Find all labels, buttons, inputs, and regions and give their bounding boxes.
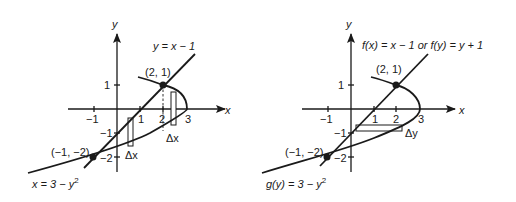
- y-tick-label: −2: [334, 152, 347, 164]
- right-figure: x y −1 1 2 3 1 −1 −2 (2, 1) (−1, −2) Δy …: [262, 18, 483, 190]
- line-equation-label: f(x) = x − 1 or f(y) = y + 1: [362, 39, 483, 51]
- x-axis-label: x: [224, 104, 231, 116]
- region-area-diagrams: x y −1 1 2 3 1 −1 −2 (2, 1) (−1, −2) Δ: [0, 0, 516, 202]
- y-tick-label: −2: [100, 152, 113, 164]
- x-tick-label: 3: [418, 113, 424, 125]
- x-tick-label: 3: [185, 113, 191, 125]
- left-figure: x y −1 1 2 3 1 −1 −2 (2, 1) (−1, −2) Δ: [28, 18, 231, 190]
- delta-x-label: Δx: [166, 132, 179, 144]
- point-label: (−1, −2): [285, 146, 324, 158]
- x-tick-label: 2: [159, 113, 165, 125]
- point-label: (−1, −2): [51, 146, 90, 158]
- y-axis-label: y: [111, 18, 119, 30]
- curve-equation-label: x = 3 − y2: [31, 176, 79, 190]
- point-label: (2, 1): [376, 63, 402, 75]
- x-tick-label: 2: [393, 113, 399, 125]
- x-tick-label: 1: [138, 113, 144, 125]
- intersection-point: [90, 154, 97, 161]
- y-tick-label: 1: [338, 79, 344, 91]
- point-label: (2, 1): [145, 66, 171, 78]
- delta-y-label: Δy: [405, 127, 418, 139]
- line-f-of-x: [320, 54, 428, 166]
- x-tick-label: −1: [320, 113, 333, 125]
- delta-x-label: Δx: [125, 149, 138, 161]
- curve-equation-label: g(y) = 3 − y2: [266, 176, 327, 190]
- x-axis-label: x: [458, 104, 465, 116]
- y-tick-label: −1: [334, 127, 347, 139]
- y-tick-label: 1: [104, 79, 110, 91]
- intersection-point: [160, 82, 167, 89]
- y-axis-label: y: [345, 18, 353, 30]
- line-equation-label: y = x − 1: [152, 40, 195, 52]
- y-tick-label: −1: [100, 127, 113, 139]
- x-tick-label: −1: [86, 113, 99, 125]
- strip-rect: [356, 125, 402, 131]
- x-tick-label: 1: [372, 113, 378, 125]
- intersection-point: [324, 154, 331, 161]
- intersection-point: [393, 82, 400, 89]
